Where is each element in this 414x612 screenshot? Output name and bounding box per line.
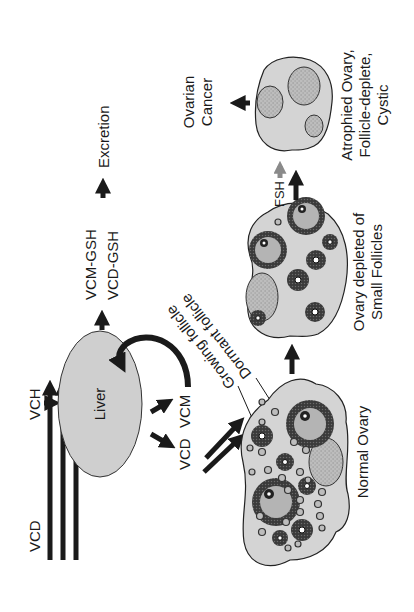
normal-ovary-label: Normal Ovary bbox=[354, 405, 371, 498]
fsh-label: FSH bbox=[272, 181, 287, 207]
cyst bbox=[288, 67, 320, 105]
ovarian-cancer-label-line2: Cancer bbox=[198, 78, 215, 126]
growing-follicle bbox=[272, 530, 288, 546]
cyst bbox=[257, 86, 283, 118]
excretion-label: Excretion bbox=[95, 105, 112, 168]
growing-follicle bbox=[250, 310, 266, 326]
atrophied-ovary-label-line2: Follicle-deplete, bbox=[356, 52, 373, 157]
liver-to-vcd-arrow bbox=[151, 434, 170, 445]
vcd-double-arrow bbox=[204, 422, 240, 472]
liver-label: Liver bbox=[91, 388, 108, 421]
ovotoxicity-pathway-diagram: VCD VCH Liver VCD VCM VCM-GSH VCD-GSH Ex… bbox=[0, 0, 414, 612]
vcd-source-label: VCD bbox=[26, 520, 43, 552]
cyst bbox=[305, 115, 323, 137]
depleted-ovary: Ovary depleted of Small Follicles bbox=[246, 197, 385, 338]
growing-follicle bbox=[305, 302, 325, 322]
depleted-ovary-label-line2: Small Follicles bbox=[368, 224, 385, 320]
large-follicle bbox=[287, 197, 325, 235]
vcm-gsh-label: VCM-GSH bbox=[82, 229, 99, 300]
atrophied-ovary: Atrophied Ovary, Follicle-deplete, Cysti… bbox=[255, 49, 391, 160]
atrophied-ovary-label-line3: Cystic bbox=[374, 84, 391, 125]
growing-follicle bbox=[276, 453, 294, 471]
growing-follicle bbox=[287, 269, 309, 291]
dormant-follicle-leader bbox=[256, 378, 270, 400]
large-follicle bbox=[249, 231, 287, 269]
dormant-follicle bbox=[275, 219, 281, 225]
growing-follicle bbox=[322, 234, 338, 250]
growing-follicle bbox=[291, 519, 313, 541]
vch-label: VCH bbox=[26, 388, 43, 420]
depleted-ovary-label-line1: Ovary depleted of bbox=[350, 212, 367, 331]
vcm-metabolite-label: VCM bbox=[176, 395, 193, 428]
vcd-metabolite-label: VCD bbox=[176, 438, 193, 470]
normal-ovary: Normal Ovary bbox=[241, 379, 371, 565]
liver-to-vcm-arrow bbox=[151, 402, 168, 412]
diagram-canvas: VCD VCH Liver VCD VCM VCM-GSH VCD-GSH Ex… bbox=[0, 0, 414, 612]
atrophied-ovary-label-line1: Atrophied Ovary, bbox=[338, 49, 355, 160]
vcd-gsh-label: VCD-GSH bbox=[104, 231, 121, 300]
ovarian-cancer-label-line1: Ovarian bbox=[180, 76, 197, 129]
growing-follicle bbox=[251, 425, 273, 447]
growing-follicle bbox=[306, 250, 326, 270]
